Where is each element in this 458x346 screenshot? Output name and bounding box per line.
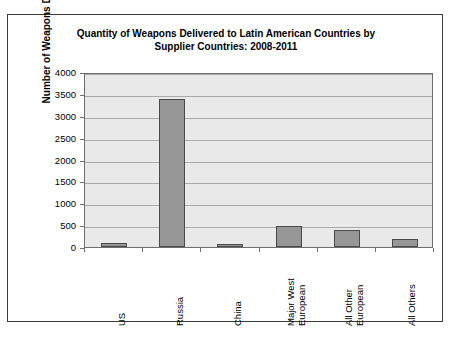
chart-figure: Quantity of Weapons Delivered to Latin A… [7, 14, 443, 322]
chart-title: Quantity of Weapons Delivered to Latin A… [20, 27, 432, 53]
y-axis-tick-label: 1500 [36, 177, 76, 187]
bar [159, 99, 185, 247]
x-axis-category-label: Russia [174, 297, 185, 326]
x-axis-tick-mark [317, 248, 318, 252]
bar [101, 243, 127, 247]
y-axis-tick-label: 2000 [36, 156, 76, 166]
x-axis-category-label: US [116, 313, 127, 326]
x-axis-tick-mark [200, 248, 201, 252]
bar [276, 226, 302, 247]
y-axis-tick-label: 0 [36, 243, 76, 253]
bar [392, 239, 418, 247]
x-axis-category-label: China [232, 301, 243, 326]
x-axis-category-label: All Other [343, 289, 354, 326]
x-axis-tick-mark [84, 248, 85, 252]
x-axis-tick-mark [433, 248, 434, 252]
y-axis-tick-mark [80, 161, 84, 162]
x-axis-category-label: Major West [285, 278, 296, 326]
y-axis-tick-label: 2500 [36, 134, 76, 144]
x-axis-tick-mark [375, 248, 376, 252]
plot-area [84, 73, 433, 248]
y-axis-title: Number of Weapons Delivered [41, 0, 57, 119]
y-axis-tick-mark [80, 95, 84, 96]
bar [334, 230, 360, 247]
x-axis-category-label: European [296, 285, 307, 326]
y-axis-tick-label: 3500 [36, 90, 76, 100]
y-axis-tick-mark [80, 204, 84, 205]
y-axis-tick-mark [80, 182, 84, 183]
y-axis-tick-mark [80, 139, 84, 140]
y-axis-tick-mark [80, 117, 84, 118]
y-axis-tick-label: 4000 [36, 68, 76, 78]
y-axis-tick-mark [80, 226, 84, 227]
chart-title-line-1: Quantity of Weapons Delivered to Latin A… [77, 28, 375, 39]
x-axis-category-label: All Others [406, 284, 417, 326]
x-axis-category-label: European [354, 285, 365, 326]
y-axis-tick-label: 3000 [36, 112, 76, 122]
x-axis-tick-mark [259, 248, 260, 252]
chart-title-line-2: Supplier Countries: 2008-2011 [20, 40, 432, 53]
y-axis-tick-label: 1000 [36, 199, 76, 209]
bars-series [85, 74, 432, 247]
x-axis-tick-mark [142, 248, 143, 252]
y-axis-tick-mark [80, 73, 84, 74]
y-axis-tick-label: 500 [36, 221, 76, 231]
bar [217, 244, 243, 247]
